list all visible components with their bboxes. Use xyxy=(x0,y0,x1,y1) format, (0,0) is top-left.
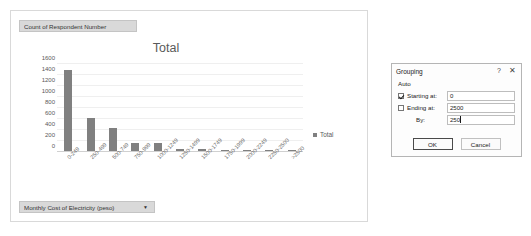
pivot-chart-frame: Count of Respondent Number Total 0200400… xyxy=(10,10,368,222)
text-caret xyxy=(460,116,461,123)
checkbox-ending-at[interactable] xyxy=(398,105,404,111)
y-tick-label: 1200 xyxy=(29,77,55,84)
plot-wrapper: 02004006008001000120014001600 0-249250-4… xyxy=(29,63,359,163)
bar-cell xyxy=(169,63,191,151)
x-axis-tick-labels: 0-249250-499500-749750-9991000-12491250-… xyxy=(57,153,303,208)
x-tick-cell: 500-749 xyxy=(102,153,124,203)
label-by: By: xyxy=(407,116,447,123)
x-tick-cell: 2000-2249 xyxy=(236,153,258,203)
label-ending-at: Ending at: xyxy=(407,104,447,111)
axis-field-button[interactable]: Monthly Cost of Electricity (peso) ▼ xyxy=(19,201,155,213)
input-starting-at[interactable]: 0 xyxy=(447,91,515,101)
dialog-fields: Starting at:0Ending at:2500By:250 xyxy=(398,90,515,125)
y-tick-label: 400 xyxy=(29,121,55,128)
input-by[interactable]: 250 xyxy=(447,115,515,125)
cancel-button[interactable]: Cancel xyxy=(461,138,501,150)
y-tick-label: 600 xyxy=(29,110,55,117)
dialog-button-row: OK Cancel xyxy=(392,138,521,150)
legend-field-button[interactable]: Count of Respondent Number xyxy=(19,20,137,32)
x-tick-cell: 250-499 xyxy=(79,153,101,203)
x-tick-cell: >2500 xyxy=(281,153,303,203)
input-value-by: 250 xyxy=(450,117,460,123)
y-tick-label: 1000 xyxy=(29,88,55,95)
y-tick-label: 200 xyxy=(29,132,55,139)
y-tick-label: 1400 xyxy=(29,66,55,73)
x-tick-cell: 1250-1499 xyxy=(169,153,191,203)
close-icon[interactable]: ✕ xyxy=(509,67,516,75)
dialog-title-bar: Grouping ? ✕ xyxy=(392,64,521,79)
bar-cell xyxy=(124,63,146,151)
bar-cell xyxy=(57,63,79,151)
axis-field-button-label: Monthly Cost of Electricity (peso) xyxy=(24,204,141,211)
y-axis-tick-labels: 02004006008001000120014001600 xyxy=(29,58,55,156)
dialog-row-by: By:250 xyxy=(398,114,515,125)
chart-title: Total xyxy=(11,41,321,55)
bar-cell xyxy=(102,63,124,151)
dialog-body: Auto Starting at:0Ending at:2500By:250 xyxy=(392,79,521,125)
dialog-row-ending-at: Ending at:2500 xyxy=(398,102,515,113)
help-icon[interactable]: ? xyxy=(497,67,501,74)
bar[interactable] xyxy=(87,118,95,151)
input-value-ending-at: 2500 xyxy=(450,105,463,111)
bar-cell xyxy=(146,63,168,151)
x-tick-cell: 1000-1249 xyxy=(146,153,168,203)
auto-section-label: Auto xyxy=(398,80,515,87)
x-tick-cell: 750-999 xyxy=(124,153,146,203)
legend-swatch-total xyxy=(313,133,317,137)
x-tick-cell: 1750-1999 xyxy=(214,153,236,203)
screenshot-root: Count of Respondent Number Total 0200400… xyxy=(0,0,531,236)
checkbox-starting-at[interactable] xyxy=(398,93,404,99)
x-tick-cell: 1500-1749 xyxy=(191,153,213,203)
ok-button[interactable]: OK xyxy=(413,138,453,150)
input-ending-at[interactable]: 2500 xyxy=(447,103,515,113)
bar-cell xyxy=(79,63,101,151)
x-tick-cell: 2250-2500 xyxy=(258,153,280,203)
bar[interactable] xyxy=(64,70,72,151)
axis-field-dropdown-arrow[interactable]: ▼ xyxy=(141,204,150,210)
y-tick-label: 0 xyxy=(29,143,55,150)
y-tick-label: 800 xyxy=(29,99,55,106)
legend-label-total: Total xyxy=(320,131,334,138)
legend-field-button-label: Count of Respondent Number xyxy=(24,23,123,30)
bar-series xyxy=(57,63,303,151)
input-value-starting-at: 0 xyxy=(450,93,453,99)
dialog-title: Grouping xyxy=(396,68,423,75)
x-tick-cell: 0-249 xyxy=(57,153,79,203)
label-starting-at: Starting at: xyxy=(407,92,447,99)
dialog-row-starting-at: Starting at:0 xyxy=(398,90,515,101)
chart-legend: Total xyxy=(313,131,334,138)
bar[interactable] xyxy=(109,128,117,151)
y-tick-label: 1600 xyxy=(29,55,55,62)
grouping-dialog: Grouping ? ✕ Auto Starting at:0Ending at… xyxy=(391,63,522,157)
